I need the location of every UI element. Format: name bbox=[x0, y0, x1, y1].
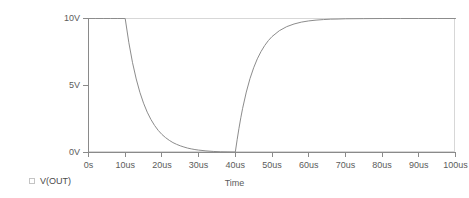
x-axis-tick-label: 0s bbox=[84, 160, 94, 170]
x-axis-tick-label: 60us bbox=[299, 160, 319, 170]
x-axis-tick bbox=[345, 153, 346, 157]
x-axis-tick bbox=[88, 153, 89, 157]
y-axis-tick bbox=[83, 85, 88, 86]
x-axis-tick bbox=[382, 153, 383, 157]
legend-label-v-out: V(OUT) bbox=[40, 176, 71, 186]
y-axis-line bbox=[88, 18, 89, 153]
x-axis-tick-label: 90us bbox=[409, 160, 429, 170]
x-axis-tick-label: 10us bbox=[115, 160, 135, 170]
y-axis-tick-label: 0V bbox=[4, 148, 80, 157]
x-axis-tick-label: 100us bbox=[443, 160, 468, 170]
x-axis-tick-label: 70us bbox=[336, 160, 356, 170]
y-axis-tick-label: 10V bbox=[4, 14, 80, 23]
plot-screenshot: 0V5V10V 0s10us20us30us40us50us60us70us80… bbox=[0, 0, 469, 198]
y-axis-tick bbox=[83, 18, 88, 19]
x-axis-tick bbox=[125, 153, 126, 157]
x-axis-tick-label: 30us bbox=[189, 160, 209, 170]
x-axis-tick-label: 20us bbox=[152, 160, 172, 170]
x-axis-tick bbox=[272, 153, 273, 157]
x-axis-tick bbox=[235, 153, 236, 157]
x-axis-tick bbox=[308, 153, 309, 157]
legend[interactable]: V(OUT) bbox=[29, 176, 71, 186]
x-axis-tick-label: 50us bbox=[262, 160, 282, 170]
x-axis-tick-label: 80us bbox=[372, 160, 392, 170]
legend-swatch-v-out bbox=[29, 178, 35, 184]
x-axis-tick-label: 40us bbox=[226, 160, 246, 170]
x-axis-tick bbox=[455, 153, 456, 157]
x-axis-tick bbox=[161, 153, 162, 157]
plot-area bbox=[88, 18, 455, 152]
y-axis-tick-label: 5V bbox=[4, 81, 80, 90]
x-axis-tick bbox=[198, 153, 199, 157]
x-axis-tick bbox=[418, 153, 419, 157]
